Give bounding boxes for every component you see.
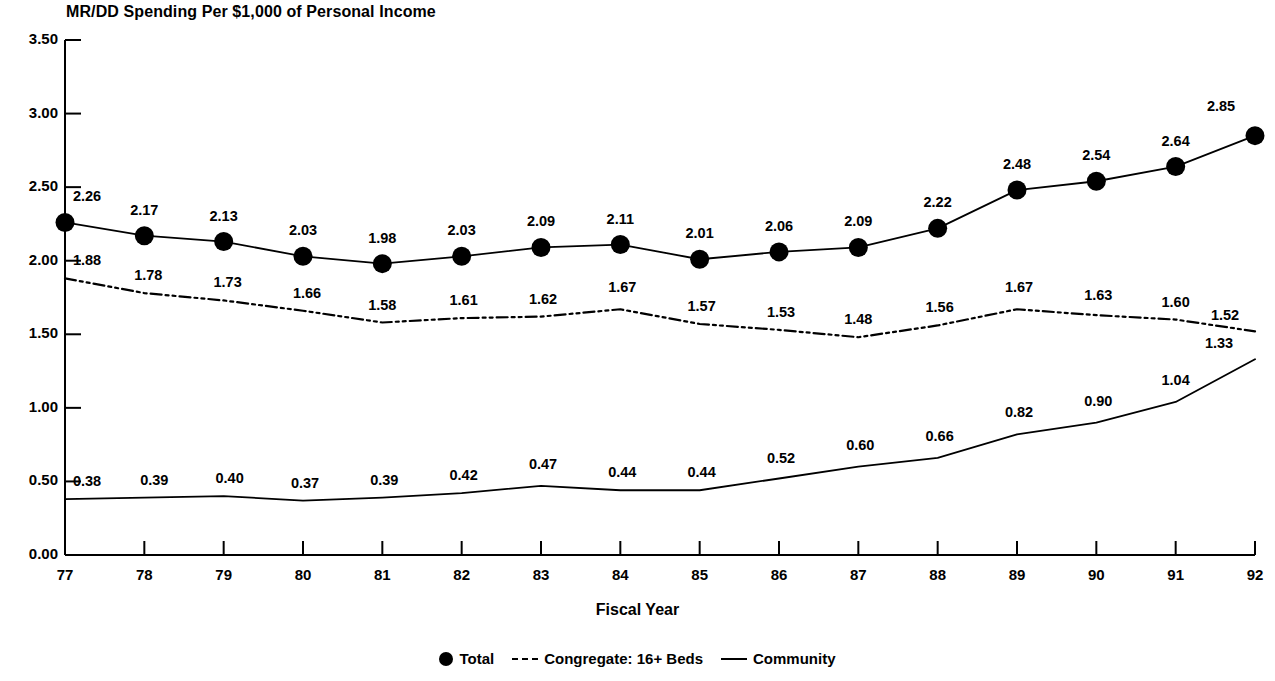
data-point-marker	[1246, 126, 1265, 145]
legend-label: Total	[459, 650, 494, 667]
x-axis-tick-label: 89	[997, 566, 1037, 583]
data-point-label: 1.88	[66, 252, 108, 268]
data-point-label: 0.44	[601, 464, 643, 480]
x-axis-tick-label: 79	[204, 566, 244, 583]
data-point-label: 1.04	[1155, 372, 1197, 388]
y-axis-tick-label: 1.50	[0, 324, 58, 341]
data-point-label: 0.38	[66, 473, 108, 489]
data-point-marker	[214, 232, 233, 251]
data-point-label: 1.61	[443, 292, 485, 308]
y-axis-tick-label: 1.00	[0, 398, 58, 415]
data-point-marker	[928, 219, 947, 238]
x-axis-tick-label: 84	[600, 566, 640, 583]
data-point-label: 0.66	[919, 428, 961, 444]
x-axis-tick-label: 77	[45, 566, 85, 583]
data-point-label: 2.54	[1075, 147, 1117, 163]
data-point-label: 1.48	[837, 311, 879, 327]
data-point-label: 1.58	[361, 297, 403, 313]
data-point-label: 0.44	[681, 464, 723, 480]
x-axis-title: Fiscal Year	[0, 601, 1275, 619]
data-point-label: 2.26	[66, 188, 108, 204]
data-point-label: 2.22	[917, 194, 959, 210]
data-point-label: 0.39	[133, 472, 175, 488]
data-point-label: 2.17	[123, 202, 165, 218]
data-point-label: 0.90	[1077, 393, 1119, 409]
data-point-label: 1.60	[1155, 294, 1197, 310]
x-axis-tick-label: 78	[124, 566, 164, 583]
data-point-label: 0.60	[839, 437, 881, 453]
data-point-marker	[294, 247, 313, 266]
data-point-label: 1.67	[998, 279, 1040, 295]
data-point-label: 1.67	[601, 279, 643, 295]
x-axis-tick-label: 81	[362, 566, 402, 583]
x-axis-tick-label: 86	[759, 566, 799, 583]
legend-item[interactable]: Congregate: 16+ Beds	[512, 650, 703, 667]
data-series-lines	[65, 136, 1255, 501]
data-point-label: 1.33	[1198, 335, 1240, 351]
y-axis-tick-label: 0.50	[0, 471, 58, 488]
data-point-label: 2.06	[758, 218, 800, 234]
data-point-label: 2.64	[1155, 133, 1197, 149]
data-point-label: 1.98	[361, 230, 403, 246]
legend-item[interactable]: Total	[439, 650, 494, 667]
data-point-marker	[1087, 172, 1106, 191]
y-axis-tick-label: 0.00	[0, 545, 58, 562]
data-point-label: 1.73	[207, 274, 249, 290]
data-point-label: 0.52	[760, 450, 802, 466]
data-point-marker	[532, 238, 551, 257]
data-point-label: 2.09	[520, 213, 562, 229]
x-axis-tick-label: 91	[1156, 566, 1196, 583]
data-point-label: 0.82	[998, 404, 1040, 420]
data-point-marker	[849, 238, 868, 257]
x-axis-tick-label: 92	[1235, 566, 1275, 583]
data-point-label: 2.85	[1200, 98, 1242, 114]
chart-legend: TotalCongregate: 16+ BedsCommunity	[0, 650, 1275, 667]
data-point-marker	[611, 235, 630, 254]
data-point-label: 2.11	[599, 211, 641, 227]
data-point-label: 1.62	[522, 291, 564, 307]
y-axis-tick-label: 2.00	[0, 251, 58, 268]
data-point-label: 1.52	[1204, 307, 1246, 323]
y-axis-tick-label: 2.50	[0, 177, 58, 194]
data-point-label: 2.03	[282, 222, 324, 238]
legend-dot-icon	[439, 652, 453, 666]
data-point-marker	[373, 254, 392, 273]
x-axis-tick-label: 80	[283, 566, 323, 583]
chart-container: MR/DD Spending Per $1,000 of Personal In…	[0, 0, 1275, 681]
legend-dashed-line-icon	[512, 658, 538, 660]
data-point-label: 1.66	[286, 285, 328, 301]
data-point-label: 0.39	[363, 472, 405, 488]
data-point-label: 0.37	[284, 475, 326, 491]
data-point-marker	[56, 213, 75, 232]
data-point-label: 2.01	[679, 225, 721, 241]
x-axis-tick-label: 90	[1076, 566, 1116, 583]
data-point-label: 1.57	[681, 298, 723, 314]
y-axis-tick-label: 3.50	[0, 30, 58, 47]
legend-label: Community	[753, 650, 836, 667]
x-axis-tick-label: 85	[680, 566, 720, 583]
data-point-label: 1.56	[919, 299, 961, 315]
data-point-marker	[770, 242, 789, 261]
data-point-label: 2.03	[441, 222, 483, 238]
data-point-label: 0.42	[443, 467, 485, 483]
data-point-label: 1.63	[1077, 287, 1119, 303]
data-point-label: 2.48	[996, 156, 1038, 172]
x-axis-tick-label: 82	[442, 566, 482, 583]
legend-solid-line-icon	[721, 658, 747, 660]
data-point-label: 1.53	[760, 304, 802, 320]
data-point-marker	[1008, 181, 1027, 200]
data-point-marker	[135, 226, 154, 245]
x-axis-tick-label: 87	[838, 566, 878, 583]
data-point-marker	[452, 247, 471, 266]
data-point-label: 0.47	[522, 456, 564, 472]
x-axis-tick-label: 88	[918, 566, 958, 583]
y-axis-tick-label: 3.00	[0, 104, 58, 121]
data-point-marker	[1166, 157, 1185, 176]
legend-item[interactable]: Community	[721, 650, 836, 667]
data-point-label: 1.78	[127, 267, 169, 283]
legend-label: Congregate: 16+ Beds	[544, 650, 703, 667]
data-point-label: 0.40	[209, 470, 251, 486]
data-point-label: 2.09	[837, 213, 879, 229]
data-point-marker	[690, 250, 709, 269]
x-axis-tick-label: 83	[521, 566, 561, 583]
